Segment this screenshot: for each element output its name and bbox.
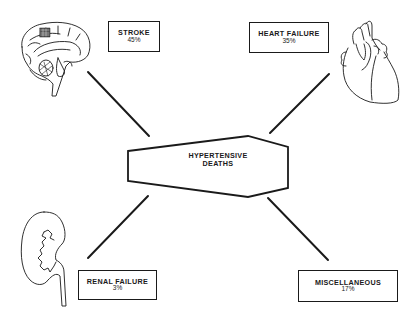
cause-percent: 45% [127,37,140,44]
renal-failure-label-box: RENAL FAILURE 3% [78,270,157,300]
heart-failure-label-box: HEART FAILURE 35% [249,22,329,53]
brain-icon [22,22,90,96]
connector-stroke [88,72,149,136]
cause-percent: 17% [341,286,354,293]
central-label: HYPERTENSIVE DEATHS [168,152,268,169]
cause-percent: 35% [282,38,295,45]
heart-icon [341,21,399,103]
cause-percent: 3% [113,285,122,292]
stroke-label-box: STROKE 45% [108,21,160,52]
connector-miscellaneous [268,198,328,260]
central-label-line2: DEATHS [168,160,268,168]
connector-renal-failure [88,196,148,258]
hypertensive-deaths-diagram: HYPERTENSIVE DEATHS STROKE 45% HEART FAI… [0,0,415,322]
miscellaneous-label-box: MISCELLANEOUS 17% [298,270,398,302]
connector-heart-failure [270,74,329,133]
kidney-icon [21,212,66,306]
